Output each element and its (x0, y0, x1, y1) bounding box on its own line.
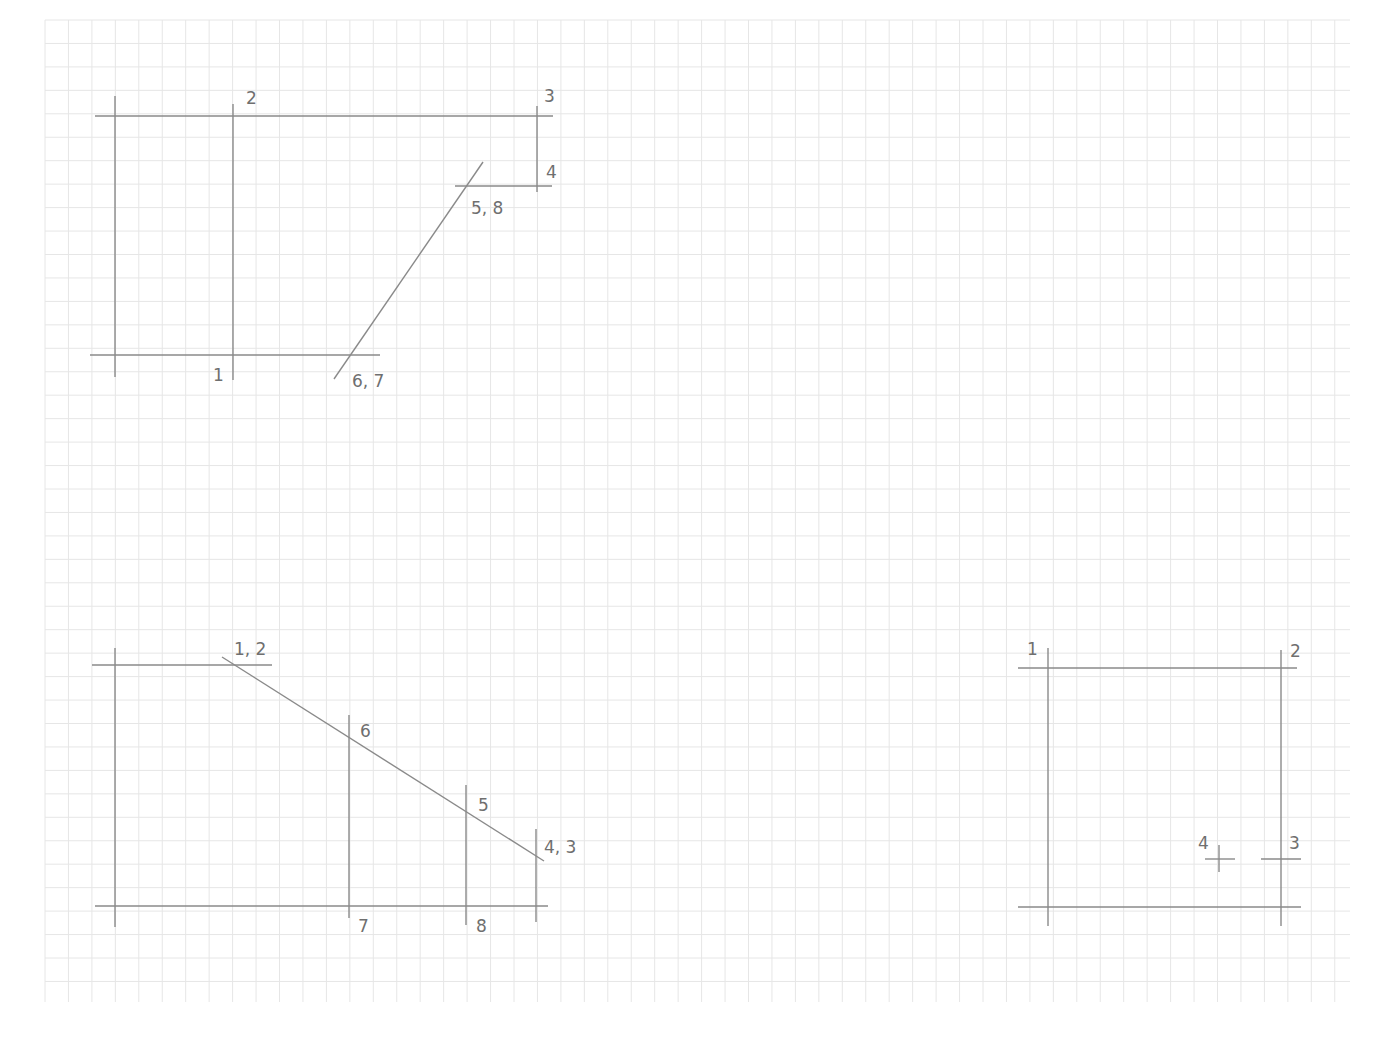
point-label: 5, 8 (471, 198, 503, 218)
point-label: 4 (1198, 833, 1209, 853)
point-label: 1 (1027, 639, 1038, 659)
point-label: 8 (476, 916, 487, 936)
point-label: 1 (213, 365, 224, 385)
point-label: 7 (358, 916, 369, 936)
graph-paper-diagram: 2345, 816, 7 1, 2654, 378 1243 (0, 0, 1381, 1041)
point-label: 4, 3 (544, 837, 576, 857)
construction-line (222, 657, 544, 861)
figure-bottom-right: 1243 (1018, 639, 1301, 926)
grid (45, 20, 1350, 1002)
point-label: 5 (478, 795, 489, 815)
point-label: 3 (1289, 833, 1300, 853)
point-label: 2 (1290, 641, 1301, 661)
point-label: 3 (544, 86, 555, 106)
point-label: 4 (546, 162, 557, 182)
point-label: 6 (360, 721, 371, 741)
construction-line (334, 162, 483, 379)
figure-top-left: 2345, 816, 7 (90, 86, 557, 391)
point-label: 1, 2 (234, 639, 266, 659)
point-label: 2 (246, 88, 257, 108)
figure-bottom-left: 1, 2654, 378 (92, 639, 576, 936)
point-label: 6, 7 (352, 371, 384, 391)
